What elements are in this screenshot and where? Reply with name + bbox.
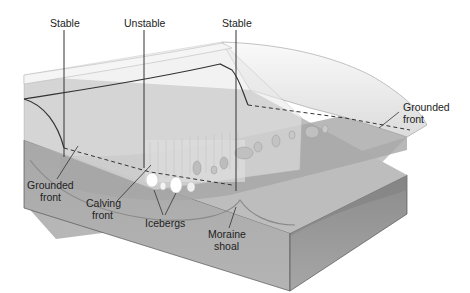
iceberg — [289, 131, 295, 139]
iceberg — [235, 147, 253, 159]
iceberg — [160, 182, 166, 190]
label-grounded-front-left: Grounded — [27, 179, 74, 191]
iceberg — [170, 177, 182, 193]
iceberg — [146, 173, 158, 187]
iceberg — [272, 135, 280, 147]
label-grounded-front-right-2: front — [403, 113, 424, 125]
label-moraine-shoal: Moraine — [208, 228, 246, 240]
iceberg — [187, 182, 195, 192]
glacier-block-diagram: Stable Unstable Stable Grounded front Gr… — [0, 0, 470, 293]
label-icebergs: Icebergs — [145, 217, 185, 229]
label-moraine-shoal-2: shoal — [214, 240, 239, 252]
iceberg — [211, 166, 217, 174]
label-stable-left: Stable — [50, 17, 80, 29]
label-stable-right: Stable — [222, 17, 252, 29]
label-grounded-front-right: Grounded — [403, 101, 450, 113]
iceberg — [305, 126, 319, 138]
iceberg — [193, 161, 201, 175]
label-calving-front: Calving — [86, 197, 121, 209]
label-calving-front-2: front — [92, 209, 113, 221]
label-grounded-front-left-2: front — [40, 191, 61, 203]
iceberg — [322, 125, 328, 133]
label-unstable: Unstable — [124, 17, 166, 29]
iceberg — [220, 157, 228, 169]
iceberg — [254, 142, 262, 152]
